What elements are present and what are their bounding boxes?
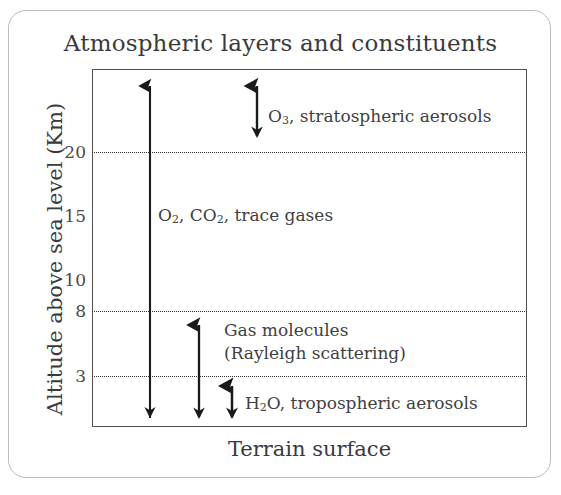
y-tick-labels: 20 15 10 8 3 xyxy=(22,0,86,495)
annotation-ozone: O3, stratospheric aerosols xyxy=(268,105,491,129)
annotation-water-vapor: H2O, tropospheric aerosols xyxy=(245,392,478,416)
y-tick-20: 20 xyxy=(26,142,86,162)
atmospheric-layers-figure: Atmospheric layers and constituents Alti… xyxy=(0,0,561,495)
gridline-3 xyxy=(92,376,527,377)
annotation-water-rest: O, tropospheric aerosols xyxy=(267,393,478,413)
annotation-ozone-rest: , stratospheric aerosols xyxy=(289,106,491,126)
annotation-trace-mid: , CO xyxy=(179,205,217,225)
y-tick-8: 8 xyxy=(26,301,86,321)
annotation-water-subscript: 2 xyxy=(260,401,267,414)
annotation-trace-rest: , trace gases xyxy=(224,205,333,225)
annotation-ozone-subscript: 3 xyxy=(282,114,289,127)
annotation-gas-molecules: Gas molecules (Rayleigh scattering) xyxy=(224,319,406,365)
gridline-20 xyxy=(92,152,527,153)
annotation-ozone-species: O xyxy=(268,106,282,126)
annotation-gas-molecules-line2: (Rayleigh scattering) xyxy=(224,342,406,365)
y-tick-3: 3 xyxy=(26,366,86,386)
annotation-trace-subscript-b: 2 xyxy=(217,213,224,226)
annotation-gas-molecules-line1: Gas molecules xyxy=(224,319,406,342)
annotation-water-species: H xyxy=(245,393,260,413)
y-tick-15: 15 xyxy=(26,206,86,226)
annotation-trace-subscript-a: 2 xyxy=(172,213,179,226)
x-axis-title: Terrain surface xyxy=(92,437,527,461)
y-tick-10: 10 xyxy=(26,270,86,290)
annotation-trace-gases: O2, CO2, trace gases xyxy=(158,204,333,228)
gridline-8 xyxy=(92,311,527,312)
annotation-trace-species-a: O xyxy=(158,205,172,225)
